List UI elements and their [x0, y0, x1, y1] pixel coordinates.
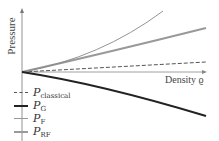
- gray-line-swatch-icon: [14, 131, 28, 133]
- thick-line-swatch-icon: [14, 105, 28, 107]
- legend-item-p-f: PF: [14, 112, 94, 125]
- legend-item-p-rf: PRF: [14, 125, 94, 138]
- x-axis-label: Density ϱ: [165, 74, 204, 85]
- y-axis-arrow-icon: [20, 8, 24, 13]
- y-axis-label: Pressure: [5, 11, 17, 61]
- dashed-line-swatch-icon: [14, 92, 28, 93]
- series-p-classical: [22, 62, 206, 72]
- series-p-f: [22, 11, 163, 72]
- series-p-rf: [22, 28, 206, 72]
- legend-subscript: RF: [40, 131, 50, 139]
- thin-line-swatch-icon: [14, 118, 28, 119]
- legend-item-p-g: PG: [14, 99, 94, 112]
- legend-item-p-classical: Pclassical: [14, 86, 94, 99]
- legend: Pclassical PG PF PRF: [14, 86, 94, 138]
